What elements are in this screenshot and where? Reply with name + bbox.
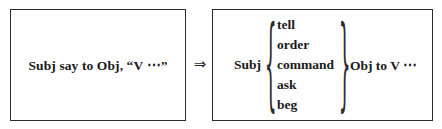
brace-open-icon: { [265, 20, 273, 110]
implies-arrow-glyph: ⇒ [194, 57, 207, 72]
source-pattern-box: Subj say to Obj, “V ⋯” [10, 9, 186, 121]
list-item: order [277, 35, 309, 55]
verb-alternatives-list: tell order command ask beg [277, 15, 334, 115]
target-subject-label: Subj [234, 57, 261, 73]
list-item: ask [277, 75, 297, 95]
list-item: tell [277, 15, 295, 35]
source-pattern-content: Subj say to Obj, “V ⋯” [11, 10, 185, 120]
target-pattern-box: Subj { tell order command ask beg } Obj … [212, 9, 433, 121]
list-item: command [277, 55, 334, 75]
target-tail-text: Obj to V ⋯ [350, 57, 417, 74]
list-item: beg [277, 95, 297, 115]
target-pattern-content: Subj { tell order command ask beg } Obj … [213, 10, 432, 120]
source-pattern-text: Subj say to Obj, “V ⋯” [29, 57, 168, 74]
brace-close-icon: } [339, 20, 347, 110]
transformation-diagram: Subj say to Obj, “V ⋯” ⇒ Subj { tell ord… [0, 0, 442, 129]
implies-arrow-icon: ⇒ [188, 0, 212, 129]
